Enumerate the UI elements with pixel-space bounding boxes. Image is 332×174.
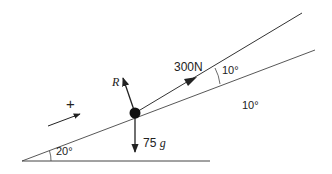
angle-incline-label: 20° bbox=[56, 146, 73, 157]
incline-force-diagram: 300N R 75 g 10° 10° 20° + bbox=[0, 0, 332, 174]
pull-force-line bbox=[135, 13, 302, 113]
particle bbox=[130, 108, 141, 119]
pull-force-label: 300N bbox=[174, 61, 203, 73]
positive-direction-label: + bbox=[66, 96, 75, 111]
positive-direction-arrow bbox=[48, 114, 80, 126]
angle-arc-20 bbox=[50, 151, 52, 161]
diagram-canvas bbox=[0, 0, 332, 174]
angle-pull-repeat-label: 10° bbox=[242, 100, 259, 111]
angle-arc-10 bbox=[215, 68, 220, 84]
normal-reaction-arrow bbox=[123, 78, 135, 113]
weight-value: 75 bbox=[143, 136, 156, 150]
pull-force-arrowhead bbox=[184, 77, 197, 86]
weight-g: g bbox=[160, 136, 166, 150]
weight-label: 75 g bbox=[143, 137, 166, 149]
angle-pull-label: 10° bbox=[222, 65, 239, 76]
normal-reaction-label: R bbox=[112, 76, 119, 88]
